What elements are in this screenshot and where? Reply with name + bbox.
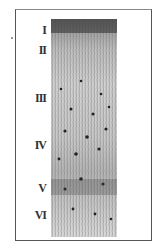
layer-label-1: I bbox=[24, 24, 46, 36]
layer-label-5: V bbox=[24, 182, 46, 194]
layer-label-4: IV bbox=[24, 139, 46, 151]
cortex-tissue-drawing bbox=[51, 19, 117, 237]
layer-label-3: III bbox=[24, 92, 46, 104]
layer-label-6: VI bbox=[24, 209, 46, 221]
layer-label-2: II bbox=[24, 44, 46, 56]
stray-mark bbox=[11, 37, 13, 39]
